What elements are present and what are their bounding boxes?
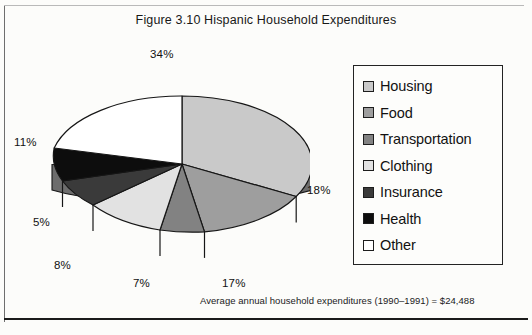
page-bottom-scan-artifacts xyxy=(4,322,528,335)
legend-label-other: Other xyxy=(380,237,416,253)
legend-label-housing: Housing xyxy=(380,78,433,94)
legend-item-transportation: Transportation xyxy=(363,126,502,153)
pie-label-clothing: 7% xyxy=(133,277,150,289)
pie-chart xyxy=(48,66,310,278)
legend-swatch-clothing xyxy=(363,160,374,171)
legend-label-clothing: Clothing xyxy=(380,158,432,174)
page-bottom-rule xyxy=(4,318,528,320)
legend-item-food: Food xyxy=(363,100,502,127)
page-left-rule xyxy=(4,6,5,328)
legend-label-transportation: Transportation xyxy=(380,131,472,147)
chart-footnote: Average annual household expenditures (1… xyxy=(200,295,475,306)
legend-label-health: Health xyxy=(380,211,421,227)
chart-legend: Housing Food Transportation Clothing Ins… xyxy=(353,65,503,265)
legend-item-clothing: Clothing xyxy=(363,153,502,180)
pie-top-face xyxy=(53,96,310,232)
legend-swatch-transportation xyxy=(363,134,374,145)
pie-label-housing: 34% xyxy=(150,48,174,60)
legend-item-housing: Housing xyxy=(363,73,502,100)
chart-title: Figure 3.10 Hispanic Household Expenditu… xyxy=(0,13,532,27)
page-top-rule xyxy=(4,5,524,6)
legend-label-food: Food xyxy=(380,105,413,121)
pie-label-other: 11% xyxy=(14,136,37,148)
pie-label-insurance: 8% xyxy=(54,259,71,271)
pie-chart-svg xyxy=(48,66,310,278)
legend-item-other: Other xyxy=(363,232,502,259)
legend-swatch-housing xyxy=(363,81,374,92)
legend-swatch-food xyxy=(363,107,374,118)
pie-label-health: 5% xyxy=(33,216,50,228)
legend-swatch-health xyxy=(363,213,374,224)
pie-label-transportation: 17% xyxy=(222,277,246,289)
pie-label-food: 18% xyxy=(307,184,331,196)
legend-swatch-insurance xyxy=(363,187,374,198)
legend-item-health: Health xyxy=(363,206,502,233)
legend-label-insurance: Insurance xyxy=(380,184,443,200)
legend-swatch-other xyxy=(363,240,374,251)
legend-item-insurance: Insurance xyxy=(363,179,502,206)
